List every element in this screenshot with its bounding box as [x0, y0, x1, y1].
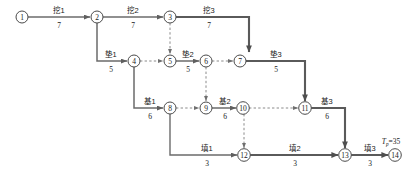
activity-duration-ji3: 6 [325, 112, 329, 121]
node-label: 8 [168, 104, 172, 113]
node-label: 14 [391, 151, 399, 160]
node-2[interactable]: 2 [91, 11, 103, 23]
node-label: 3 [168, 13, 172, 22]
activity-duration-dian1: 5 [109, 65, 113, 74]
node-4[interactable]: 4 [128, 55, 140, 67]
node-label: 13 [341, 151, 349, 160]
node-9[interactable]: 9 [200, 102, 212, 114]
activity-duration-wa1: 7 [57, 21, 61, 30]
activity-name-dian2: 垫2 [182, 49, 193, 59]
activity-duration-wa2: 7 [131, 21, 135, 30]
activity-duration-tian3: 3 [368, 159, 372, 168]
node-label: 11 [301, 104, 308, 113]
activity-name-tian2: 填2 [289, 143, 300, 153]
node-8[interactable]: 8 [164, 102, 176, 114]
node-label: 1 [20, 13, 24, 22]
node-5[interactable]: 5 [164, 55, 176, 67]
activity-name-wa2: 挖2 [127, 5, 138, 15]
node-14[interactable]: 14 [389, 149, 402, 162]
activity-name-ji1: 基1 [144, 96, 155, 106]
node-label: 6 [204, 57, 208, 66]
node-1[interactable]: 1 [16, 11, 28, 23]
activity-duration-ji2: 6 [223, 112, 227, 121]
activity-duration-dian3: 5 [274, 65, 278, 74]
activity-name-dian1: 垫1 [105, 49, 116, 59]
node-label: 4 [132, 57, 136, 66]
node-7[interactable]: 7 [234, 55, 246, 67]
activity-name-dian3: 垫3 [270, 49, 281, 59]
activity-duration-tian1: 3 [205, 159, 209, 168]
activity-duration-ji1: 6 [148, 112, 152, 121]
activity-name-tian3: 填3 [364, 143, 375, 153]
activity-duration-tian2: 3 [293, 159, 297, 168]
node-11[interactable]: 11 [299, 102, 312, 115]
activity-duration-dian2: 5 [186, 65, 190, 74]
network-diagram: 1 2 3 4 5 6 7 8 [0, 0, 414, 173]
node-6[interactable]: 6 [200, 55, 212, 67]
activity-name-wa3: 挖3 [203, 5, 214, 15]
activity-name-tian1: 填1 [201, 143, 212, 153]
network-diagram-canvas: 1 2 3 4 5 6 7 8 [0, 0, 414, 173]
node-label: 7 [238, 57, 242, 66]
activity-name-wa1: 挖1 [53, 5, 64, 15]
activity-duration-wa3: 7 [207, 21, 211, 30]
node-label: 10 [239, 104, 247, 113]
node-label: 5 [168, 57, 172, 66]
activity-name-ji3: 基3 [321, 96, 332, 106]
activity-name-ji2: 基2 [219, 96, 230, 106]
node-10[interactable]: 10 [237, 102, 250, 115]
project-duration-label: Tp=35 [382, 137, 401, 147]
node-label: 12 [240, 151, 248, 160]
node-label: 9 [204, 104, 208, 113]
node-13[interactable]: 13 [339, 149, 352, 162]
node-3[interactable]: 3 [164, 11, 176, 23]
node-label: 2 [95, 13, 99, 22]
project-duration-value: =35 [389, 137, 401, 146]
activity-arrow-wa3 [176, 17, 249, 52]
node-12[interactable]: 12 [238, 149, 251, 162]
